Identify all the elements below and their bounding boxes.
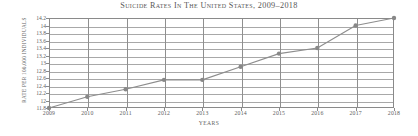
y-axis-tick-mark bbox=[46, 63, 49, 64]
x-axis-tick-mark bbox=[241, 108, 242, 111]
y-axis-tick-label: 13.4 bbox=[24, 45, 46, 51]
x-axis-tick-mark bbox=[394, 108, 395, 111]
data-point-marker bbox=[200, 78, 204, 82]
y-axis-tick-mark bbox=[46, 26, 49, 27]
y-axis-tick-label: 13.6 bbox=[24, 38, 46, 44]
chart-container: Suicide rates in the United States, 2009… bbox=[0, 0, 418, 136]
y-axis-tick-mark bbox=[46, 71, 49, 72]
x-axis-tick-mark bbox=[356, 108, 357, 111]
x-axis-tick-mark bbox=[317, 108, 318, 111]
data-point-marker bbox=[238, 65, 242, 69]
y-axis-tick-mark bbox=[46, 101, 49, 102]
data-point-marker bbox=[353, 23, 357, 27]
y-axis-tick-mark bbox=[46, 78, 49, 79]
y-axis-tick-mark bbox=[46, 18, 49, 19]
x-axis-tick-mark bbox=[49, 108, 50, 111]
y-axis-tick-mark bbox=[46, 56, 49, 57]
y-axis-tick-label: 12.4 bbox=[24, 83, 46, 89]
y-axis-tick-mark bbox=[46, 93, 49, 94]
x-axis-tick-mark bbox=[164, 108, 165, 111]
y-axis-tick-label: 14 bbox=[24, 23, 46, 29]
x-axis-title: Years bbox=[0, 120, 418, 126]
y-axis-tick-label: 12.6 bbox=[24, 75, 46, 81]
y-axis-tick-mark bbox=[46, 86, 49, 87]
data-point-marker bbox=[85, 95, 89, 99]
y-axis-tick-label: 14.2 bbox=[24, 15, 46, 21]
chart-title: Suicide rates in the United States, 2009… bbox=[0, 1, 418, 10]
data-series-layer bbox=[49, 18, 394, 108]
y-axis-tick-label: 12 bbox=[24, 98, 46, 104]
x-axis-tick-mark bbox=[279, 108, 280, 111]
data-point-marker bbox=[392, 16, 396, 20]
x-axis-tick-mark bbox=[126, 108, 127, 111]
data-point-marker bbox=[162, 78, 166, 82]
line-path-suicide-rate bbox=[49, 18, 394, 108]
x-axis-tick-mark bbox=[202, 108, 203, 111]
y-axis-tick-label: 13.8 bbox=[24, 30, 46, 36]
y-axis-tick-mark bbox=[46, 41, 49, 42]
y-axis-tick-label: 13.2 bbox=[24, 53, 46, 59]
y-axis-tick-mark bbox=[46, 33, 49, 34]
data-point-marker bbox=[277, 51, 281, 55]
data-point-marker bbox=[123, 87, 127, 91]
y-axis-tick-label: 13 bbox=[24, 60, 46, 66]
y-axis-tick-label: 12.8 bbox=[24, 68, 46, 74]
y-axis-tick-label: 12.2 bbox=[24, 90, 46, 96]
data-point-marker bbox=[315, 46, 319, 50]
data-point-markers bbox=[47, 16, 396, 110]
y-axis-tick-mark bbox=[46, 48, 49, 49]
x-axis-tick-mark bbox=[87, 108, 88, 111]
